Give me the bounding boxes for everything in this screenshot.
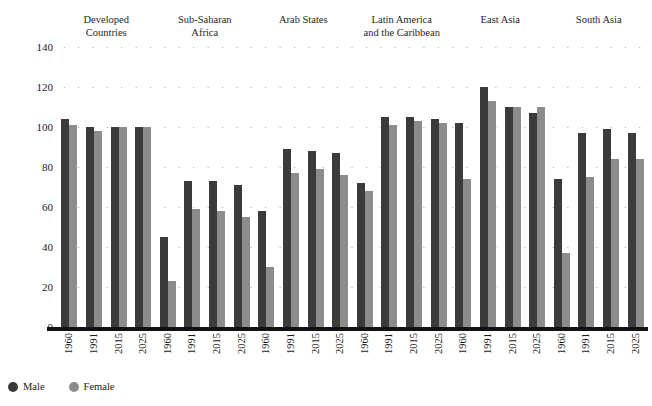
bar-male[interactable]	[431, 119, 439, 327]
x-axis-tick-label: 1960	[557, 333, 568, 354]
x-axis-tick-label: 2015	[507, 333, 518, 354]
y-axis-tick-label: 0	[5, 322, 53, 333]
x-axis-tick-label: 2015	[409, 333, 420, 354]
bar-pair	[180, 47, 205, 327]
x-tick-cell: 2015	[599, 333, 624, 377]
x-tick-cell: 2015	[303, 333, 328, 377]
bar-female[interactable]	[463, 179, 471, 327]
bar-female[interactable]	[389, 125, 397, 327]
x-axis-tick-label: 1991	[187, 333, 198, 354]
x-axis-tick-label: 2015	[212, 333, 223, 354]
bar-female[interactable]	[192, 209, 200, 327]
y-axis-tick-label: 60	[5, 202, 53, 213]
x-tick-cell: 2015	[106, 333, 131, 377]
bar-pair	[353, 47, 378, 327]
bar-male[interactable]	[184, 181, 192, 327]
bar-pair	[229, 47, 254, 327]
group-header: Latin America and the Caribbean	[353, 14, 452, 46]
bar-pair	[303, 47, 328, 327]
bar-female[interactable]	[488, 101, 496, 327]
bar-male[interactable]	[406, 117, 414, 327]
bar-male[interactable]	[455, 123, 463, 327]
bar-male[interactable]	[283, 149, 291, 327]
bar-female[interactable]	[168, 281, 176, 327]
bar-male[interactable]	[86, 127, 94, 327]
x-axis-tick-label: 2025	[433, 333, 444, 354]
bar-female[interactable]	[69, 125, 77, 327]
bar-female[interactable]	[636, 159, 644, 327]
bar-group	[451, 47, 550, 327]
x-axis-line	[47, 327, 648, 331]
bar-female[interactable]	[562, 253, 570, 327]
bar-female[interactable]	[94, 131, 102, 327]
bar-female[interactable]	[242, 217, 250, 327]
x-tick-cell: 2025	[229, 333, 254, 377]
bar-male[interactable]	[234, 185, 242, 327]
x-tick-group: 1960199120152025	[353, 333, 452, 377]
bar-female[interactable]	[119, 127, 127, 327]
bar-pair	[156, 47, 181, 327]
bar-pair	[451, 47, 476, 327]
bar-male[interactable]	[61, 119, 69, 327]
bar-female[interactable]	[439, 123, 447, 327]
bar-group	[550, 47, 649, 327]
x-tick-cell: 2025	[623, 333, 648, 377]
y-axis-tick-label: 80	[5, 162, 53, 173]
x-axis-tick-label: 2015	[113, 333, 124, 354]
x-tick-group: 1960199120152025	[550, 333, 649, 377]
x-tick-cell: 2015	[402, 333, 427, 377]
bar-pair	[476, 47, 501, 327]
bar-pair	[426, 47, 451, 327]
bar-male[interactable]	[209, 181, 217, 327]
bar-male[interactable]	[258, 211, 266, 327]
bar-female[interactable]	[143, 127, 151, 327]
x-axis-tick-label: 2025	[236, 333, 247, 354]
bar-female[interactable]	[316, 169, 324, 327]
bar-male[interactable]	[628, 133, 636, 327]
bar-pair	[550, 47, 575, 327]
bar-pair	[254, 47, 279, 327]
bar-pair	[279, 47, 304, 327]
y-axis-tick-label: 140	[5, 42, 53, 53]
bar-female[interactable]	[586, 177, 594, 327]
y-axis-tick-labels: 020406080100120140	[0, 0, 53, 406]
bar-group	[57, 47, 156, 327]
bar-male[interactable]	[480, 87, 488, 327]
bar-pair	[131, 47, 156, 327]
bar-male[interactable]	[160, 237, 168, 327]
bar-male[interactable]	[505, 107, 513, 327]
legend-item[interactable]: Female	[69, 381, 115, 392]
bar-female[interactable]	[513, 107, 521, 327]
x-axis-tick-label: 1991	[483, 333, 494, 354]
bar-male[interactable]	[357, 183, 365, 327]
x-tick-cell: 1960	[451, 333, 476, 377]
bar-female[interactable]	[611, 159, 619, 327]
chart-legend: MaleFemale	[8, 381, 130, 392]
legend-item[interactable]: Male	[8, 381, 45, 392]
bar-male[interactable]	[308, 151, 316, 327]
x-tick-cell: 2015	[500, 333, 525, 377]
bar-female[interactable]	[537, 107, 545, 327]
x-axis-tick-label: 1960	[163, 333, 174, 354]
bar-female[interactable]	[291, 173, 299, 327]
bar-male[interactable]	[332, 153, 340, 327]
x-axis-tick-label: 2015	[310, 333, 321, 354]
bar-male[interactable]	[381, 117, 389, 327]
bar-female[interactable]	[217, 211, 225, 327]
bar-male[interactable]	[603, 129, 611, 327]
bar-female[interactable]	[365, 191, 373, 327]
bar-female[interactable]	[340, 175, 348, 327]
bar-pair	[106, 47, 131, 327]
bar-female[interactable]	[266, 267, 274, 327]
bar-male[interactable]	[578, 133, 586, 327]
bar-male[interactable]	[135, 127, 143, 327]
y-axis-tick-label: 100	[5, 122, 53, 133]
x-tick-cell: 1991	[82, 333, 107, 377]
bar-male[interactable]	[111, 127, 119, 327]
x-axis-tick-label: 2025	[138, 333, 149, 354]
bar-male[interactable]	[554, 179, 562, 327]
bar-pair	[82, 47, 107, 327]
x-tick-cell: 1960	[550, 333, 575, 377]
bar-female[interactable]	[414, 121, 422, 327]
bar-male[interactable]	[529, 113, 537, 327]
